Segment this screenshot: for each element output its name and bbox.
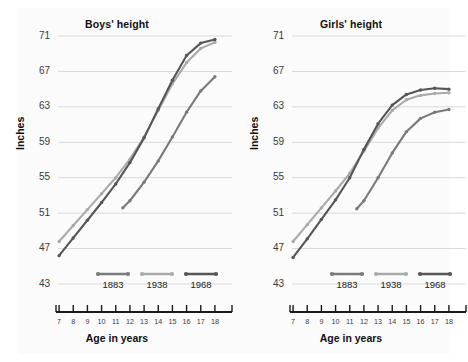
- data-point: [419, 94, 422, 97]
- y-tick-label: 67: [273, 65, 285, 76]
- data-point: [72, 224, 75, 227]
- plot-area-boys: 4347515559636771789101112131415161718188…: [0, 0, 234, 362]
- data-point: [128, 199, 131, 202]
- data-point: [213, 38, 216, 41]
- x-tick-label: 12: [126, 317, 134, 326]
- x-tick-label: 8: [305, 317, 309, 326]
- data-point: [114, 182, 117, 185]
- data-point: [142, 136, 145, 139]
- data-point: [171, 135, 174, 138]
- data-point: [114, 176, 117, 179]
- data-point: [362, 199, 365, 202]
- data-point: [199, 47, 202, 50]
- legend-swatch-endpoint: [140, 272, 144, 276]
- legend-swatch-endpoint: [170, 272, 174, 276]
- legend-swatch-endpoint: [360, 272, 364, 276]
- legend-label-1968: 1968: [424, 279, 445, 290]
- data-point: [405, 130, 408, 133]
- legend-label-1883: 1883: [102, 279, 123, 290]
- data-point: [199, 41, 202, 44]
- data-point: [334, 189, 337, 192]
- data-point: [86, 208, 89, 211]
- data-point: [447, 91, 450, 94]
- x-tick-label: 16: [417, 317, 425, 326]
- x-tick-label: 18: [211, 317, 219, 326]
- legend-swatch-endpoint: [184, 272, 188, 276]
- y-tick-label: 43: [273, 278, 285, 289]
- x-tick-label: 15: [168, 317, 176, 326]
- plot-area-girls: 4347515559636771789101112131415161718188…: [234, 0, 468, 362]
- data-point: [57, 254, 60, 257]
- data-point: [57, 240, 60, 243]
- data-point: [185, 54, 188, 57]
- data-point: [334, 198, 337, 201]
- x-tick-label: 17: [197, 317, 205, 326]
- data-point: [391, 151, 394, 154]
- data-point: [291, 256, 294, 259]
- y-tick-label: 67: [39, 65, 51, 76]
- x-tick-label: 9: [319, 317, 323, 326]
- legend-swatch-endpoint: [418, 272, 422, 276]
- data-point: [362, 148, 365, 151]
- data-point: [306, 237, 309, 240]
- data-point: [405, 98, 408, 101]
- y-tick-label: 51: [39, 207, 51, 218]
- data-point: [419, 88, 422, 91]
- data-point: [199, 89, 202, 92]
- data-point: [447, 87, 450, 90]
- data-point: [433, 110, 436, 113]
- data-point: [100, 192, 103, 195]
- x-axis-label-boys: Age in years: [0, 332, 234, 344]
- data-point: [185, 61, 188, 64]
- x-tick-label: 14: [388, 317, 396, 326]
- x-tick-label: 12: [360, 317, 368, 326]
- x-tick-label: 16: [183, 317, 191, 326]
- legend-label-1938: 1938: [146, 279, 167, 290]
- data-point: [419, 117, 422, 120]
- data-point: [391, 103, 394, 106]
- data-point: [86, 219, 89, 222]
- x-tick-label: 13: [374, 317, 382, 326]
- data-point: [433, 87, 436, 90]
- y-tick-label: 59: [273, 136, 285, 147]
- y-tick-label: 71: [39, 30, 51, 41]
- data-point: [306, 223, 309, 226]
- series-line-1883: [357, 110, 449, 209]
- legend-swatch-endpoint: [448, 272, 452, 276]
- data-point: [355, 207, 358, 210]
- data-point: [157, 107, 160, 110]
- data-point: [72, 236, 75, 239]
- x-tick-label: 7: [291, 317, 295, 326]
- data-point: [376, 122, 379, 125]
- x-axis-label-girls: Age in years: [234, 332, 468, 344]
- legend-swatch-endpoint: [374, 272, 378, 276]
- x-tick-label: 10: [332, 317, 340, 326]
- y-tick-label: 47: [273, 242, 285, 253]
- x-tick-label: 8: [71, 317, 75, 326]
- chart-girls-height: Girls' height Inches 4347515559636771789…: [234, 0, 468, 362]
- x-tick-label: 17: [431, 317, 439, 326]
- x-tick-label: 15: [402, 317, 410, 326]
- y-tick-label: 55: [273, 171, 285, 182]
- legend-swatch-endpoint: [214, 272, 218, 276]
- x-tick-label: 13: [140, 317, 148, 326]
- figure-root: Boys' height Inches 43475155596367717891…: [0, 0, 468, 362]
- data-point: [142, 180, 145, 183]
- legend-swatch-endpoint: [404, 272, 408, 276]
- data-point: [447, 108, 450, 111]
- data-point: [405, 93, 408, 96]
- legend-swatch-endpoint: [96, 272, 100, 276]
- y-tick-label: 51: [273, 207, 285, 218]
- chart-boys-height: Boys' height Inches 43475155596367717891…: [0, 0, 234, 362]
- data-point: [185, 110, 188, 113]
- data-point: [348, 176, 351, 179]
- data-point: [291, 240, 294, 243]
- legend-label-1938: 1938: [380, 279, 401, 290]
- data-point: [121, 206, 124, 209]
- charts-container: Boys' height Inches 43475155596367717891…: [0, 0, 468, 362]
- y-tick-label: 63: [39, 100, 51, 111]
- data-point: [376, 176, 379, 179]
- y-tick-label: 47: [39, 242, 51, 253]
- legend-swatch-endpoint: [126, 272, 130, 276]
- x-tick-label: 11: [346, 317, 353, 326]
